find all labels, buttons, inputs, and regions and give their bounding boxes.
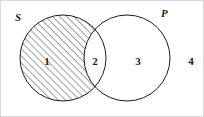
- region-label-4: 4: [184, 56, 198, 67]
- venn-diagram-figure: S P 1 2 3 4: [0, 0, 204, 117]
- region-1-shading: [1, 1, 204, 117]
- set-label-s: S: [15, 12, 21, 23]
- region-label-2: 2: [88, 56, 102, 67]
- venn-diagram-canvas: [1, 1, 204, 117]
- set-label-p: P: [161, 8, 168, 19]
- region-label-3: 3: [131, 56, 145, 67]
- region-label-1: 1: [40, 56, 54, 67]
